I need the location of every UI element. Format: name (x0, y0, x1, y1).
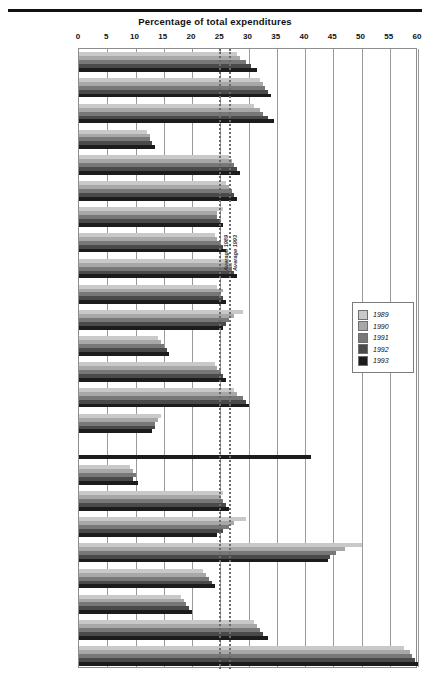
bar-1993 (79, 300, 226, 304)
chart-row: Switzerland (79, 617, 418, 643)
chart-title: Percentage of total expenditures (0, 16, 430, 27)
bar-1993 (79, 119, 274, 123)
average-reference-line (229, 49, 231, 669)
legend-item: 1989 (358, 310, 409, 320)
chart-row: United Kingdom (79, 566, 418, 592)
chart-row: Luxembourg (79, 411, 418, 437)
chart-row: Belgium (79, 127, 418, 153)
bar-1993 (79, 559, 328, 563)
chart-row: Sweden (79, 592, 418, 618)
legend-item: 1991 (358, 333, 409, 343)
chart-row: France (79, 256, 418, 282)
bar-1993 (79, 429, 152, 433)
chart-row: Spain (79, 204, 418, 230)
x-axis-tick-label: 50 (356, 32, 365, 41)
legend-swatch (358, 344, 368, 354)
x-axis-tick-label: 35 (271, 32, 280, 41)
legend-label: 1992 (373, 346, 389, 353)
chart-row: Austria (79, 101, 418, 127)
bar-1993 (79, 326, 223, 330)
legend-item: 1992 (358, 344, 409, 354)
bar-1993 (79, 610, 192, 614)
bar-1993 (79, 94, 271, 98)
gridline (418, 49, 419, 667)
chart-row: Australia (79, 75, 418, 101)
bar-1993 (79, 481, 138, 485)
bar-1993 (79, 378, 226, 382)
bar-1993 (79, 662, 418, 666)
chart-row: Canada (79, 152, 418, 178)
x-axis-tick-label: 25 (215, 32, 224, 41)
x-axis-tick-label: 60 (413, 32, 422, 41)
bar-1993 (79, 171, 240, 175)
chart-row: United States (79, 643, 418, 669)
x-axis-tick-label: 55 (384, 32, 393, 41)
bar-1993 (79, 455, 311, 459)
chart-row: Germany (79, 49, 418, 75)
header-divider (8, 9, 422, 12)
chart-row: Mexico (79, 437, 418, 463)
chart-row: Japan (79, 385, 418, 411)
x-axis-tick-label: 0 (76, 32, 80, 41)
bar-1993 (79, 223, 223, 227)
average-reference-label: Average 1993 (232, 235, 238, 271)
x-axis-tick-label: 40 (300, 32, 309, 41)
x-axis-tick-label: 45 (328, 32, 337, 41)
bar-1993 (79, 636, 268, 640)
x-axis-tick-label: 15 (158, 32, 167, 41)
chart-row: Netherlands (79, 514, 418, 540)
chart-legend: 19891990199119921993 (352, 302, 414, 373)
x-axis-tick-label: 30 (243, 32, 252, 41)
legend-label: 1989 (373, 311, 389, 318)
chart-row: Denmark (79, 178, 418, 204)
x-axis-tick-label: 20 (187, 32, 196, 41)
legend-item: 1993 (358, 356, 409, 366)
bar-1993 (79, 274, 237, 278)
legend-label: 1993 (373, 357, 389, 364)
bar-1993 (79, 145, 155, 149)
bar-1993 (79, 352, 169, 356)
bar-1993 (79, 197, 237, 201)
bar-1993 (79, 507, 229, 511)
x-axis-tick-label: 10 (130, 32, 139, 41)
average-reference-label: Average 1989 (223, 235, 229, 271)
average-reference-line (219, 49, 221, 669)
chart-row: New Zealand (79, 488, 418, 514)
x-axis-tick-label: 5 (104, 32, 108, 41)
chart-page: Percentage of total expenditures Germany… (0, 0, 430, 682)
legend-swatch (358, 321, 368, 331)
bar-1993 (79, 584, 215, 588)
legend-item: 1990 (358, 321, 409, 331)
bar-1993 (79, 404, 249, 408)
chart-row: Finland (79, 230, 418, 256)
bar-1993 (79, 533, 217, 537)
bar-1993 (79, 249, 226, 253)
chart-row: Portugal (79, 540, 418, 566)
legend-swatch (358, 356, 368, 366)
chart-row: Norway (79, 462, 418, 488)
legend-swatch (358, 310, 368, 320)
legend-swatch (358, 333, 368, 343)
legend-label: 1991 (373, 334, 389, 341)
legend-label: 1990 (373, 323, 389, 330)
